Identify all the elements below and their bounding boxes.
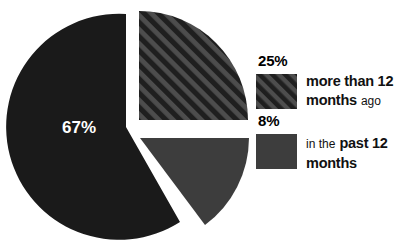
legend-label-prefix: in the [306,137,335,151]
legend-percent-8: 8% [258,112,279,129]
legend-label-line2-suffix: ago [361,94,381,108]
legend-label-line1: past 12 [339,135,387,151]
legend-label-line2: months [306,155,357,171]
legend-label-line1: more than 12 [306,73,393,89]
pie-graphic: 67% [0,0,258,252]
legend-label-line2: months [306,92,357,108]
hatched-swatch [256,74,297,109]
legend-label-past-12-months: in the past 12 months [306,134,418,173]
hatched-swatch-svg [256,74,297,109]
gray-swatch [256,134,297,169]
legend-label-more-than-12-months: more than 12 months ago [306,72,418,111]
pie-chart: 67% 25% more than 12 months ago 8% [0,0,418,252]
legend-percent-25: 25% [258,52,287,69]
pie-slice-25 [139,11,248,120]
pie-slice-67-label: 67% [62,118,96,137]
pie-svg: 67% [0,0,258,252]
gray-swatch-svg [256,134,297,169]
